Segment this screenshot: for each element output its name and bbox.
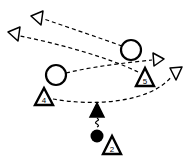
path-player5-to-left [20, 36, 138, 72]
offense-circle-left [46, 65, 66, 85]
path-circle-top-to-topleft [44, 19, 122, 46]
dribble-end-triangle [90, 103, 104, 117]
ball-handler-filled-circle [91, 130, 104, 143]
arrow-open-icon [8, 27, 20, 41]
player-5-label: 5 [143, 77, 148, 86]
arrowheads [8, 11, 182, 80]
path-circle-left-to-right [66, 60, 152, 73]
player-4-label: 4 [42, 96, 47, 105]
play-diagram: 5 4 2 [0, 0, 190, 161]
offense-circle-top [121, 40, 141, 60]
arrow-open-icon [31, 11, 43, 25]
dribble-squiggle [96, 118, 99, 127]
arrow-open-icon [153, 53, 164, 66]
player-5-triangle: 5 [136, 68, 154, 86]
player-2-triangle: 2 [103, 136, 121, 154]
arrow-open-icon [170, 67, 182, 80]
player-4-triangle: 4 [35, 88, 53, 105]
player-2-label: 2 [110, 145, 115, 154]
path-player4-curve-right [53, 76, 172, 102]
